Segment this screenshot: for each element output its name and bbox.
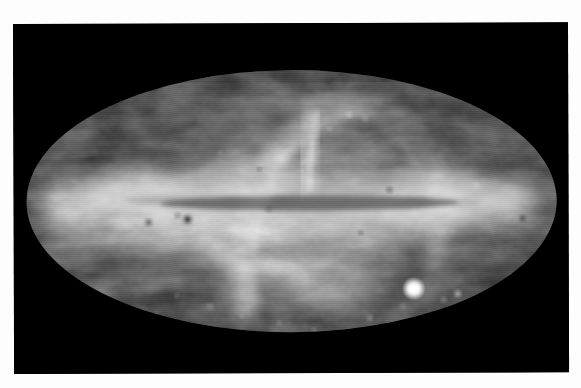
point-source xyxy=(241,315,244,318)
point-source-lmc xyxy=(407,283,421,295)
point-source xyxy=(308,135,311,138)
point-source xyxy=(401,304,404,307)
point-source xyxy=(328,128,331,131)
dark-speck xyxy=(184,216,190,222)
point-source xyxy=(208,305,211,308)
page-background xyxy=(0,0,581,388)
point-source xyxy=(176,294,179,297)
point-source xyxy=(347,113,351,117)
point-source xyxy=(278,322,281,325)
point-source xyxy=(455,291,460,296)
dark-speck xyxy=(359,231,362,234)
point-source xyxy=(313,329,316,332)
point-source xyxy=(475,184,479,188)
point-source xyxy=(364,117,367,120)
all-sky-map-image xyxy=(13,22,569,374)
dark-speck xyxy=(146,220,151,225)
figure-plate xyxy=(13,22,569,374)
dark-speck xyxy=(267,208,270,211)
point-source xyxy=(442,298,445,301)
point-source xyxy=(219,151,222,154)
dark-speck xyxy=(176,214,179,217)
point-source xyxy=(127,225,130,228)
dark-speck xyxy=(521,216,525,220)
point-source xyxy=(368,316,372,320)
dark-speck xyxy=(258,168,261,171)
dark-speck xyxy=(388,188,392,192)
